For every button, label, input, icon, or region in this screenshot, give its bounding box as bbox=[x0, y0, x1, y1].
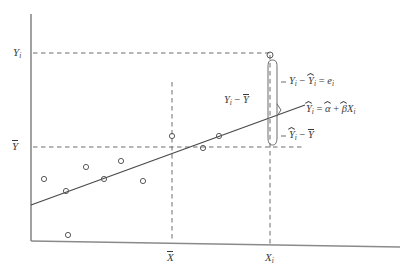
fitted-regression-line bbox=[31, 105, 305, 205]
annotation-pointers bbox=[281, 82, 286, 136]
annotation-fitted-equation: Yi = α + βXi bbox=[306, 104, 356, 116]
y-tick-label-ybar: Y bbox=[12, 141, 18, 152]
scatter-point bbox=[140, 178, 145, 183]
scatter-point bbox=[65, 232, 70, 237]
figure-canvas bbox=[0, 0, 409, 277]
regression-decomposition-figure: Yi Y X Xi Yi − Yi = ei Yi − Y Yi = α + β… bbox=[0, 0, 409, 277]
scatter-points bbox=[41, 52, 273, 238]
x-tick-label-xbar: X bbox=[167, 252, 174, 263]
annotation-residual: Yi − Yi = ei bbox=[289, 76, 334, 88]
y-tick-label-yi: Yi bbox=[13, 47, 21, 60]
x-axis-line bbox=[31, 241, 400, 247]
x-tick-label-xi: Xi bbox=[265, 252, 274, 265]
scatter-point bbox=[83, 164, 88, 169]
axis-group bbox=[31, 14, 400, 247]
brace-outline bbox=[268, 60, 277, 145]
scatter-point bbox=[41, 176, 46, 181]
guide-lines bbox=[33, 53, 305, 245]
annotation-total-deviation: Yi − Y bbox=[224, 95, 249, 107]
scatter-point bbox=[200, 145, 205, 150]
scatter-point bbox=[118, 158, 123, 163]
annotation-explained-deviation: Yi − Y bbox=[289, 130, 314, 142]
